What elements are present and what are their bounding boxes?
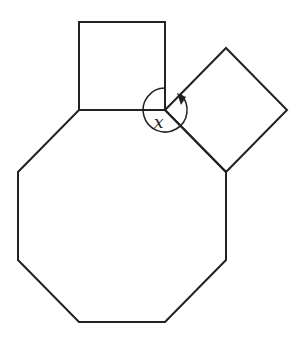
angle-label-x: x <box>154 112 164 132</box>
tilted-square <box>165 48 287 172</box>
geometry-diagram: x <box>0 0 303 345</box>
octagon <box>18 110 226 322</box>
top-square <box>79 22 165 110</box>
